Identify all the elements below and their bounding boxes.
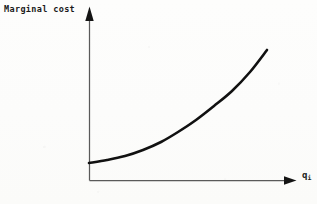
- plot-area: [0, 0, 317, 204]
- marginal-cost-figure: Marginal cost qi: [0, 0, 317, 204]
- x-axis-label: qi: [302, 171, 311, 181]
- x-axis-label-subscript: i: [307, 174, 311, 182]
- arrow-up-icon: [85, 7, 93, 22]
- marginal-cost-curve: [89, 50, 267, 163]
- y-axis-label: Marginal cost: [4, 5, 75, 14]
- arrow-right-icon: [284, 176, 297, 184]
